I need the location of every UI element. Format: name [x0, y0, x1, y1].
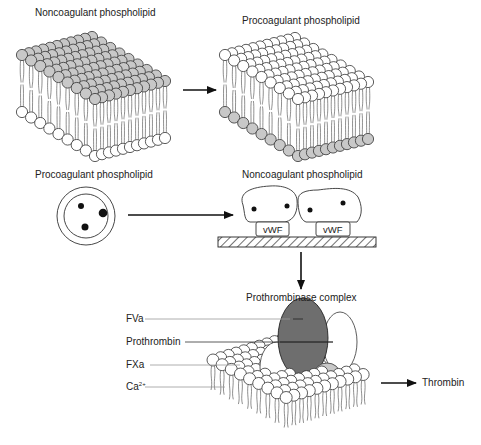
noncoagulant-bilayer-block — [16, 31, 170, 161]
label-prothrombinase-complex: Prothrombinase complex — [246, 292, 357, 303]
vwf-label-2: vWF — [323, 224, 343, 235]
label-thrombin: Thrombin — [422, 377, 464, 388]
procoagulant-bilayer-block — [219, 32, 373, 161]
procoagulant-vesicle — [57, 187, 115, 245]
label-procoagulant-top: Procoagulant phospholipid — [242, 15, 360, 26]
membrane-surface — [207, 298, 369, 428]
label-prothrombin: Prothrombin — [126, 336, 180, 347]
label-calcium: Ca2+ — [126, 381, 146, 392]
vwf-label-1: vWF — [263, 224, 283, 235]
subendothelium-surface — [218, 237, 376, 247]
label-noncoagulant-middle: Noncoagulant phospholipid — [242, 169, 363, 180]
platelet-cells — [242, 186, 361, 222]
label-fva: FVa — [126, 313, 144, 324]
label-procoagulant-middle: Procoagulant phospholipid — [35, 169, 153, 180]
label-fxa: FXa — [126, 359, 144, 370]
label-noncoagulant-top: Noncoagulant phospholipid — [35, 7, 156, 18]
coagulation-diagram — [0, 0, 481, 445]
